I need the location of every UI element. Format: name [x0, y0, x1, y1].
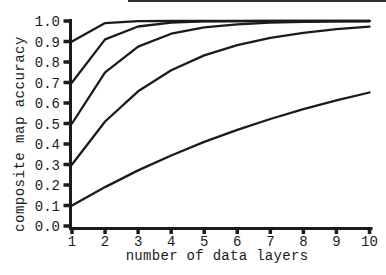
x-axis-title: number of data layers [126, 248, 309, 264]
y-tick-label: 0.7 [35, 76, 60, 92]
y-tick-label: 0.3 [35, 158, 60, 174]
y-tick-label: 0.5 [35, 117, 60, 133]
y-tick-label: 0.0 [35, 219, 60, 235]
accuracy-line-chart: 0.00.10.20.30.40.50.60.70.80.91.01234567… [0, 0, 386, 275]
y-tick-label: 0.6 [35, 96, 60, 112]
chart-figure: composite map accuracy 0.00.10.20.30.40.… [0, 0, 386, 275]
series-line [72, 21, 370, 123]
y-tick-label: 0.4 [35, 137, 60, 153]
x-tick-label: 1 [68, 234, 76, 250]
y-tick-label: 0.9 [35, 35, 60, 51]
series-line [72, 27, 370, 165]
x-tick-label: 10 [361, 234, 378, 250]
y-tick-label: 1.0 [35, 14, 60, 30]
x-tick-label: 2 [101, 234, 109, 250]
y-tick-label: 0.2 [35, 178, 60, 194]
x-tick-label: 9 [332, 234, 340, 250]
y-tick-label: 0.1 [35, 199, 60, 215]
y-tick-label: 0.8 [35, 55, 60, 71]
